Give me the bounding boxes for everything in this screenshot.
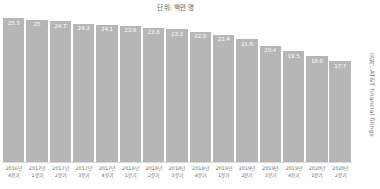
x-axis-tick-label: 2020년2분기 <box>329 165 351 178</box>
bar-value-label: 24.1 <box>96 27 118 33</box>
x-axis-tick-label: 2017년1분기 <box>26 165 48 178</box>
bar-value-label: 23.9 <box>120 28 142 34</box>
bar-value-label: 17.7 <box>329 64 351 70</box>
x-axis-tick-line: 2018년 <box>190 165 212 172</box>
bar[interactable]: 18.6 <box>306 56 328 162</box>
x-axis-tick-label: 2019년4분기 <box>283 165 305 178</box>
bar[interactable]: 25.3 <box>3 18 25 162</box>
bar-slot: 21.6 <box>236 14 258 162</box>
bar-value-label: 24.3 <box>73 26 95 32</box>
x-axis-tick-line: 1분기 <box>213 172 235 179</box>
bar-value-label: 25.3 <box>3 21 25 27</box>
bar[interactable]: 21.6 <box>236 39 258 162</box>
x-axis-tick-line: 2019년 <box>260 165 282 172</box>
bar-slot: 23.3 <box>166 14 188 162</box>
bar-value-label: 21.6 <box>236 42 258 48</box>
bar-chart: 단위: 백만 명 25.32524.724.324.123.923.623.32… <box>0 0 380 189</box>
bar[interactable]: 22.4 <box>213 35 235 163</box>
bar[interactable]: 19.5 <box>283 51 305 162</box>
x-axis-tick-label: 2020년1분기 <box>306 165 328 178</box>
x-axis-tick-line: 2017년 <box>26 165 48 172</box>
x-axis-tick-line: 2016년 <box>3 165 25 172</box>
bar-value-label: 25 <box>26 22 48 28</box>
source-credit-text: 출처: AT&T financial filings <box>368 53 377 137</box>
bar-slot: 20.4 <box>260 14 282 162</box>
bar-slot: 24.1 <box>96 14 118 162</box>
bar-slot: 18.6 <box>306 14 328 162</box>
x-axis-tick-line: 3분기 <box>260 172 282 179</box>
x-axis-tick-line: 4분기 <box>3 172 25 179</box>
x-axis-tick-line: 3분기 <box>166 172 188 179</box>
bar[interactable]: 25 <box>26 20 48 162</box>
bar-value-label: 23.3 <box>166 32 188 38</box>
x-axis-tick-line: 2020년 <box>329 165 351 172</box>
x-axis-tick-line: 2019년 <box>213 165 235 172</box>
bar[interactable]: 23.3 <box>166 29 188 162</box>
x-axis-tick-label: 2017년3분기 <box>73 165 95 178</box>
x-axis-tick-line: 2017년 <box>73 165 95 172</box>
bar-slot: 25 <box>26 14 48 162</box>
x-axis-tick-label: 2018년2분기 <box>143 165 165 178</box>
x-axis-tick-line: 4분기 <box>190 172 212 179</box>
x-axis-tick-label: 2019년1분기 <box>213 165 235 178</box>
bar-slot: 22.4 <box>213 14 235 162</box>
bar[interactable]: 24.7 <box>50 21 72 162</box>
x-axis-tick-line: 2분기 <box>236 172 258 179</box>
bar-slot: 23.6 <box>143 14 165 162</box>
x-axis-tick-line: 3분기 <box>73 172 95 179</box>
x-axis-tick-label: 2018년1분기 <box>120 165 142 178</box>
axis-baseline <box>2 162 352 163</box>
bar-slot: 17.7 <box>329 14 351 162</box>
x-axis-tick-line: 1분기 <box>26 172 48 179</box>
bar-value-label: 20.4 <box>260 48 282 54</box>
x-axis-tick-line: 2017년 <box>96 165 118 172</box>
x-axis-tick-line: 1분기 <box>120 172 142 179</box>
x-axis-tick-label: 2018년3분기 <box>166 165 188 178</box>
bar-slot: 19.5 <box>283 14 305 162</box>
bar-slot: 25.3 <box>3 14 25 162</box>
bar[interactable]: 24.1 <box>96 25 118 162</box>
bar-slot: 24.3 <box>73 14 95 162</box>
x-axis-tick-line: 4분기 <box>283 172 305 179</box>
x-axis-tick-line: 2018년 <box>166 165 188 172</box>
x-axis-tick-line: 2분기 <box>143 172 165 179</box>
x-axis-tick-line: 2분기 <box>329 172 351 179</box>
bar[interactable]: 22.9 <box>190 32 212 162</box>
x-axis-tick-label: 2019년2분기 <box>236 165 258 178</box>
x-axis-tick-label: 2016년4분기 <box>3 165 25 178</box>
x-axis-tick-label: 2018년4분기 <box>190 165 212 178</box>
x-axis-tick-line: 2019년 <box>236 165 258 172</box>
x-axis-tick-line: 1분기 <box>306 172 328 179</box>
bar[interactable]: 20.4 <box>260 46 282 162</box>
bar-value-label: 24.7 <box>50 24 72 30</box>
bar-series: 25.32524.724.324.123.923.623.322.922.421… <box>2 14 352 162</box>
unit-caption: 단위: 백만 명 <box>0 2 352 12</box>
x-axis-tick-line: 4분기 <box>96 172 118 179</box>
bar[interactable]: 23.6 <box>143 28 165 162</box>
bar-slot: 22.9 <box>190 14 212 162</box>
bar-slot: 24.7 <box>50 14 72 162</box>
source-credit: 출처: AT&T financial filings <box>365 0 379 189</box>
x-axis-tick-line: 2분기 <box>50 172 72 179</box>
bar[interactable]: 24.3 <box>73 24 95 162</box>
bar-value-label: 19.5 <box>283 54 305 60</box>
bar[interactable]: 17.7 <box>329 61 351 162</box>
x-axis-tick-label: 2017년2분기 <box>50 165 72 178</box>
x-axis-tick-line: 2018년 <box>143 165 165 172</box>
bar-value-label: 22.4 <box>213 37 235 43</box>
bar-value-label: 22.9 <box>190 34 212 40</box>
bar-value-label: 18.6 <box>306 59 328 65</box>
x-axis-tick-line: 2020년 <box>306 165 328 172</box>
x-axis-tick-line: 2017년 <box>50 165 72 172</box>
plot-area: 25.32524.724.324.123.923.623.322.922.421… <box>2 14 352 162</box>
x-axis-labels: 2016년4분기2017년1분기2017년2분기2017년3분기2017년4분기… <box>2 165 352 178</box>
x-axis-tick-line: 2019년 <box>283 165 305 172</box>
x-axis-tick-label: 2019년3분기 <box>260 165 282 178</box>
bar-slot: 23.9 <box>120 14 142 162</box>
bar[interactable]: 23.9 <box>120 26 142 162</box>
x-axis-tick-line: 2018년 <box>120 165 142 172</box>
x-axis-tick-label: 2017년4분기 <box>96 165 118 178</box>
bar-value-label: 23.6 <box>143 30 165 36</box>
